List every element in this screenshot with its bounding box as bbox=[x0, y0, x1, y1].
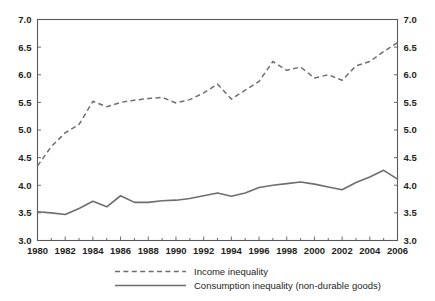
x-tick-label: 1980 bbox=[27, 245, 48, 256]
y-tick-label-left: 6.0 bbox=[18, 69, 31, 80]
y-tick-label-left: 5.5 bbox=[18, 97, 32, 108]
x-tick-label: 1984 bbox=[82, 245, 104, 256]
x-tick-label: 1982 bbox=[55, 245, 76, 256]
chart-background bbox=[0, 0, 435, 301]
y-tick-label-right: 5.0 bbox=[404, 124, 417, 135]
y-tick-label-left: 7.0 bbox=[18, 14, 31, 25]
x-tick-label: 2000 bbox=[304, 245, 325, 256]
line-chart: 3.03.54.04.55.05.56.06.57.0 3.03.54.04.5… bbox=[0, 0, 435, 301]
x-tick-label: 2006 bbox=[387, 245, 408, 256]
x-tick-label: 1996 bbox=[248, 245, 269, 256]
legend-label-consumption-inequality: Consumption inequality (non-durable good… bbox=[194, 280, 381, 291]
x-tick-label: 2002 bbox=[332, 245, 353, 256]
y-tick-label-right: 4.0 bbox=[404, 180, 417, 191]
y-tick-label-right: 5.5 bbox=[404, 97, 418, 108]
legend-label-income-inequality: Income inequality bbox=[194, 266, 268, 277]
y-tick-label-right: 6.5 bbox=[404, 42, 418, 53]
y-tick-label-right: 4.5 bbox=[404, 152, 418, 163]
x-tick-label: 1990 bbox=[165, 245, 186, 256]
y-tick-label-left: 6.5 bbox=[18, 42, 32, 53]
x-tick-label: 2004 bbox=[359, 245, 381, 256]
y-tick-label-left: 4.0 bbox=[18, 180, 31, 191]
x-tick-label: 1992 bbox=[193, 245, 214, 256]
y-tick-label-right: 6.0 bbox=[404, 69, 417, 80]
y-tick-label-left: 4.5 bbox=[18, 152, 32, 163]
y-axis-right-labels: 3.03.54.04.55.05.56.06.57.0 bbox=[404, 14, 418, 246]
y-tick-label-right: 7.0 bbox=[404, 14, 417, 25]
x-tick-label: 1986 bbox=[110, 245, 131, 256]
y-tick-label-left: 5.0 bbox=[18, 124, 31, 135]
y-tick-label-left: 3.5 bbox=[18, 207, 32, 218]
x-tick-label: 1988 bbox=[138, 245, 159, 256]
x-tick-label: 1994 bbox=[221, 245, 243, 256]
y-tick-label-right: 3.5 bbox=[404, 207, 418, 218]
chart-figure: 3.03.54.04.55.05.56.06.57.0 3.03.54.04.5… bbox=[0, 0, 435, 301]
x-tick-label: 1998 bbox=[276, 245, 297, 256]
y-axis-left-labels: 3.03.54.04.55.05.56.06.57.0 bbox=[18, 14, 32, 246]
